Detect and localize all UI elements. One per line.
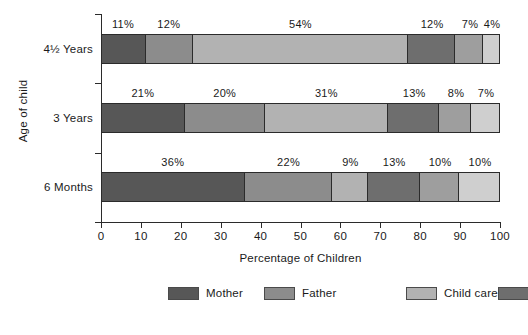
bar-segment (388, 104, 440, 132)
bar-segment-label: 10% (455, 156, 505, 168)
x-tick-label: 80 (400, 230, 440, 242)
bar-segment (146, 35, 194, 63)
bar-segment-label: 20% (200, 87, 250, 99)
bar-segment (420, 173, 460, 201)
y-tick (95, 153, 101, 154)
x-tick-label: 10 (121, 230, 161, 242)
bar-segment (265, 104, 388, 132)
bar-segment-label: 54% (276, 18, 326, 30)
bar-segment (455, 35, 483, 63)
bar-segment-label: 4% (467, 18, 517, 30)
bar-segment (368, 173, 420, 201)
y-tick (95, 83, 101, 84)
x-tick-label: 50 (281, 230, 321, 242)
stacked-bar (101, 103, 500, 133)
x-tick (141, 222, 142, 228)
legend-label: Mother (206, 287, 243, 299)
legend-swatch (406, 287, 437, 300)
x-tick (181, 222, 182, 228)
x-tick (340, 222, 341, 228)
legend-item: Child care home (406, 287, 498, 300)
x-tick-label: 90 (440, 230, 480, 242)
bar-segment-label: 9% (325, 156, 375, 168)
bar-segment (408, 35, 456, 63)
x-axis-title: Percentage of Children (101, 252, 500, 264)
x-tick (301, 222, 302, 228)
bar-segment (102, 104, 185, 132)
bar-segment (332, 173, 368, 201)
legend-item: Grandparent (498, 287, 528, 300)
bar-segment (102, 173, 245, 201)
legend-item: Mother (168, 287, 264, 300)
x-tick (420, 222, 421, 228)
x-tick (261, 222, 262, 228)
bar-segment (245, 173, 332, 201)
x-tick (500, 222, 501, 228)
bar-segment-label: 22% (264, 156, 314, 168)
y-tick (95, 14, 101, 15)
x-tick-label: 0 (81, 230, 121, 242)
x-tick (460, 222, 461, 228)
bar-segment-label: 11% (98, 18, 148, 30)
bar-segment-label: 31% (301, 87, 351, 99)
category-label: 3 Years (5, 112, 93, 124)
bar-segment (483, 35, 499, 63)
bar-segment (471, 104, 499, 132)
stacked-bar (101, 172, 500, 202)
bar-segment (185, 104, 264, 132)
bar-segment-label: 13% (369, 156, 419, 168)
bar-segment (439, 104, 471, 132)
legend-label: Father (302, 287, 336, 299)
stacked-bar (101, 34, 500, 64)
category-label: 6 Months (5, 181, 93, 193)
bar-segment-label: 12% (144, 18, 194, 30)
x-tick-label: 60 (320, 230, 360, 242)
x-tick (221, 222, 222, 228)
x-tick (380, 222, 381, 228)
bar-segment-label: 36% (148, 156, 198, 168)
category-label: 4½ Years (5, 43, 93, 55)
bar-segment (193, 35, 407, 63)
x-tick-label: 20 (161, 230, 201, 242)
x-tick-label: 70 (360, 230, 400, 242)
legend-swatch (264, 287, 295, 300)
legend: MotherFatherChild care homeGrandparentCe… (168, 282, 498, 304)
bar-segment-label: 21% (118, 87, 168, 99)
plot-area: 4½ Years3 Years6 Months 11%12%54%12%7%4%… (101, 14, 500, 222)
x-tick (101, 222, 102, 228)
stacked-bar-chart: Age of child 4½ Years3 Years6 Months 11%… (0, 0, 528, 335)
bar-segment (102, 35, 146, 63)
legend-swatch (168, 287, 199, 300)
bar-segment (459, 173, 499, 201)
bar-segment-label: 7% (461, 87, 511, 99)
legend-swatch (498, 287, 528, 300)
legend-item: Father (264, 287, 406, 300)
x-tick-label: 30 (201, 230, 241, 242)
x-tick-label: 100 (480, 230, 520, 242)
x-tick-label: 40 (241, 230, 281, 242)
